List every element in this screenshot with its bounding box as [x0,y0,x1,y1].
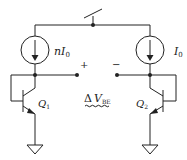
current-source-left [21,36,49,75]
ground-left-icon [27,145,43,154]
plus-terminal-dot [75,73,79,77]
transistor-q1 [11,75,35,145]
ground-right-icon [142,145,158,154]
circuit-diagram: nI0 I0 + − Q1 [0,0,187,160]
top-node-dot [91,23,95,27]
transistor-q2 [150,75,176,145]
q1-label: Q1 [38,98,50,110]
emitter-arrow-icon [150,108,158,114]
wavy-underline [85,105,109,107]
top-rail [35,23,150,36]
delta-vbe-label: ΔVBE [84,92,111,105]
left-node-wires [11,73,79,77]
current-source-right [136,36,164,75]
q2-label: Q2 [136,98,148,110]
arrow-down-icon [32,55,39,61]
minus-sign: − [112,59,120,70]
right-node-wires [115,73,176,77]
left-source-label: nI0 [54,45,70,59]
supply-switch-symbol [84,9,102,25]
arrow-down-icon [147,55,154,61]
right-source-label: I0 [173,45,183,59]
plus-sign: + [80,59,88,70]
minus-terminal-dot [115,73,119,77]
